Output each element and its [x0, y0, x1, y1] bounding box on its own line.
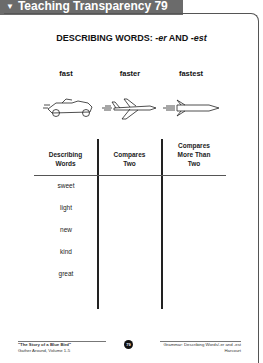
- example-word-fastest: fastest: [161, 69, 221, 78]
- header-label: Teaching Transparency 79: [18, 0, 168, 13]
- table-header-rule: [34, 175, 226, 176]
- table-row-word: sweet: [34, 182, 98, 189]
- table-row-word: kind: [34, 248, 98, 255]
- footer-source-volume: Gather Around, Volume 1-5: [18, 348, 70, 354]
- table-row-word: new: [34, 226, 98, 233]
- column-header-compares-two: ComparesTwo: [98, 150, 161, 168]
- table-row-word: light: [34, 204, 98, 211]
- column-header-compares-more: ComparesMore ThanTwo: [162, 141, 226, 168]
- example-word-faster: faster: [100, 69, 160, 78]
- column-header-describing-words: DescribingWords: [34, 150, 97, 168]
- page-number-badge: 79: [124, 340, 133, 349]
- table-row-word: great: [34, 270, 98, 277]
- comparison-table: DescribingWords ComparesTwo ComparesMore…: [34, 139, 226, 309]
- page-title: DESCRIBING WORDS: -er AND -est: [0, 33, 263, 43]
- race-car-icon: [42, 95, 102, 121]
- footer-publisher: Harcourt: [225, 348, 241, 354]
- triangle-down-icon: ▼: [6, 0, 14, 13]
- example-word-fast: fast: [36, 69, 96, 78]
- rocket-icon: [163, 95, 223, 121]
- airplane-icon: [102, 95, 162, 121]
